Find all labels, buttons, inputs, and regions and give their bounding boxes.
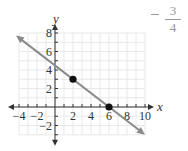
coordinate-graph: −4−2246810−22468 x y	[0, 0, 188, 151]
slope-fraction: 3 4	[162, 4, 184, 35]
y-tick-label: 4	[46, 63, 52, 77]
y-tick-label: 6	[46, 45, 52, 59]
x-tick-label: −4	[13, 109, 26, 123]
data-point	[69, 76, 76, 83]
x-axis-label: x	[156, 99, 163, 114]
y-tick-label: −2	[39, 119, 52, 133]
fraction-numerator: 3	[170, 3, 177, 18]
x-tick-label: 2	[70, 109, 76, 123]
x-tick-label: 10	[139, 109, 151, 123]
y-tick-label: 8	[46, 26, 52, 40]
x-tick-label: 4	[88, 109, 94, 123]
x-tick-label: 6	[106, 109, 112, 123]
y-tick-label: 2	[46, 82, 52, 96]
y-axis-label: y	[51, 11, 59, 26]
fraction-minus-sign	[151, 14, 159, 15]
fraction-denominator: 4	[170, 20, 177, 35]
data-point	[105, 103, 112, 110]
